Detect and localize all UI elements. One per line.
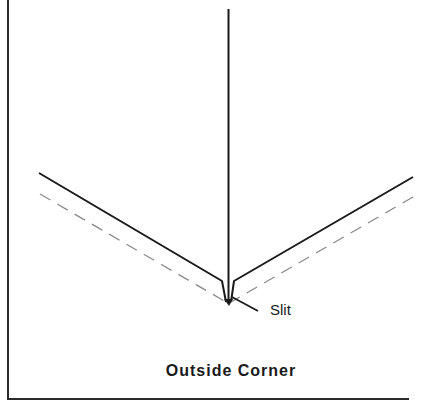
slit-leader [232,297,258,311]
left-edge-dashed [40,194,226,302]
right-edge-dashed [231,197,413,302]
right-edge-solid [231,177,413,302]
left-edge-solid [39,173,226,302]
slit-label: Slit [270,301,292,318]
outside-corner-diagram: Slit Outside Corner [0,0,437,411]
slit-point-marker [224,299,233,306]
diagram-title: Outside Corner [166,362,296,379]
